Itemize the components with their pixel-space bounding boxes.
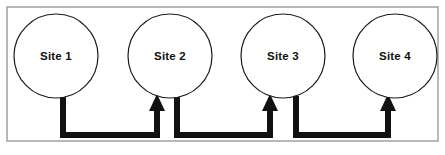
node-site-2[interactable]: Site 2 — [128, 14, 212, 98]
node-label: Site 1 — [40, 50, 72, 62]
diagram-figure: Site 1Site 2Site 3Site 4 — [0, 0, 445, 155]
node-label: Site 2 — [154, 50, 186, 62]
node-label: Site 3 — [267, 50, 299, 62]
node-site-4[interactable]: Site 4 — [353, 14, 437, 98]
node-label: Site 4 — [379, 50, 411, 62]
node-site-3[interactable]: Site 3 — [241, 14, 325, 98]
diagram-canvas: Site 1Site 2Site 3Site 4 — [0, 0, 445, 155]
node-site-1[interactable]: Site 1 — [14, 14, 98, 98]
